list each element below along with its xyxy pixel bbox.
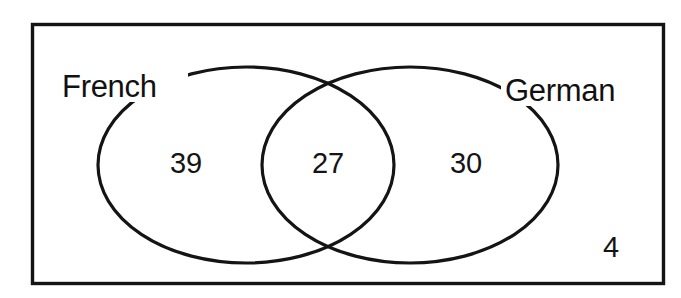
french-set-label: French	[62, 69, 157, 104]
venn-diagram-canvas: French German 39 27 30 4	[0, 0, 681, 298]
outside-sets-count: 4	[603, 231, 619, 263]
intersection-count: 27	[312, 147, 344, 179]
french-only-count: 39	[170, 147, 202, 179]
universal-set-rectangle	[33, 25, 664, 284]
venn-diagram-page: French German 39 27 30 4	[0, 0, 681, 298]
german-only-count: 30	[450, 147, 482, 179]
german-set-label: German	[505, 73, 615, 108]
